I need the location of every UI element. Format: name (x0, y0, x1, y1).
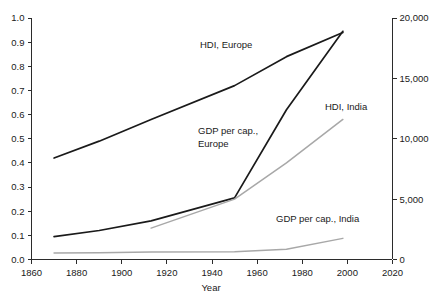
left-tick-label: 0.0 (11, 254, 24, 265)
right-tick-label: 15,000 (400, 73, 429, 84)
left-tick-label: 1.0 (11, 12, 24, 23)
chart-container: 0.00.10.20.30.40.50.60.70.80.91.0 05,000… (0, 0, 433, 302)
series-label: HDI, India (325, 101, 368, 112)
x-tick-label: 2000 (337, 267, 358, 278)
right-tick-label: 5,000 (400, 194, 424, 205)
x-tick-label: 1880 (66, 267, 87, 278)
left-tick-label: 0.2 (11, 206, 24, 217)
x-tick-label: 1920 (156, 267, 177, 278)
series-label: GDP per cap.,Europe (198, 125, 258, 149)
left-tick-label: 0.3 (11, 181, 24, 192)
left-tick-label: 0.1 (11, 230, 24, 241)
series-annotations: HDI, EuropeGDP per cap.,EuropeHDI, India… (198, 39, 368, 224)
left-tick-label: 0.5 (11, 133, 24, 144)
left-axis-ticks: 0.00.10.20.30.40.50.60.70.80.91.0 (11, 12, 31, 265)
x-tick-label: 1960 (247, 267, 268, 278)
right-tick-label: 20,000 (400, 12, 429, 23)
series-label: GDP per cap., India (276, 213, 360, 224)
series-line (54, 238, 343, 253)
right-axis-ticks: 05,00010,00015,00020,000 (393, 12, 429, 265)
left-tick-label: 0.8 (11, 61, 24, 72)
x-axis-title: Year (201, 282, 220, 293)
x-tick-label: 2020 (382, 267, 403, 278)
x-tick-label: 1940 (201, 267, 222, 278)
left-tick-label: 0.9 (11, 37, 24, 48)
left-tick-label: 0.6 (11, 109, 24, 120)
left-tick-label: 0.7 (11, 85, 24, 96)
x-tick-label: 1900 (111, 267, 132, 278)
x-axis-ticks: 186018801900192019401960198020002020 (21, 260, 403, 278)
line-chart: 0.00.10.20.30.40.50.60.70.80.91.0 05,000… (0, 0, 433, 302)
x-tick-label: 1860 (21, 267, 42, 278)
right-tick-label: 0 (400, 254, 405, 265)
x-tick-label: 1980 (292, 267, 313, 278)
series-label: HDI, Europe (200, 39, 252, 50)
left-tick-label: 0.4 (11, 157, 24, 168)
right-tick-label: 10,000 (400, 133, 429, 144)
